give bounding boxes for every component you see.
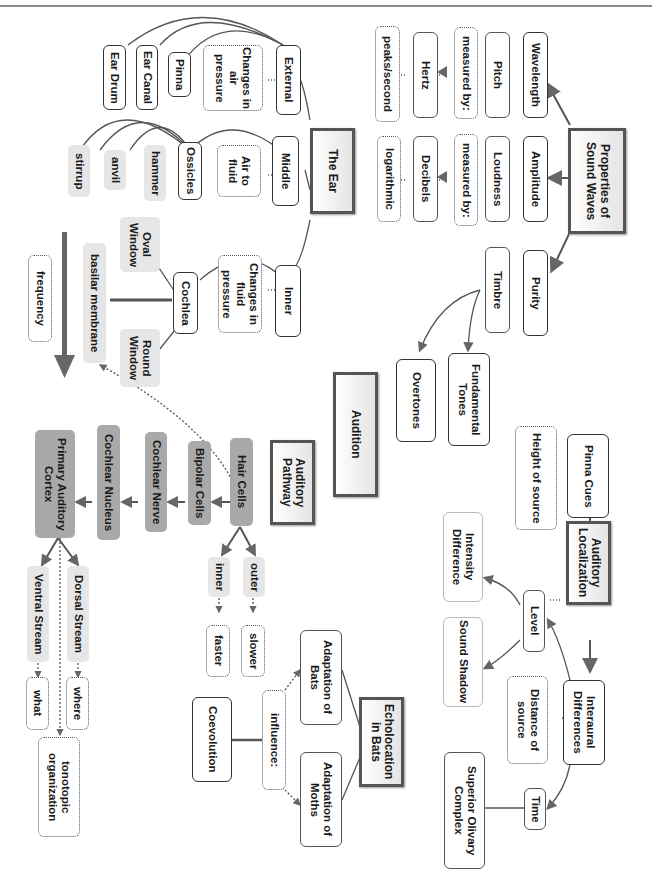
ear-canal-node: Ear Canal xyxy=(136,45,158,110)
auditory-pathway-title: Auditory Pathway xyxy=(270,440,315,525)
external-node: External xyxy=(276,45,301,115)
faster-note: faster xyxy=(206,625,230,677)
superior-olivary-complex-node: Superior Olivary Complex xyxy=(444,752,485,869)
logarithmic-note: logarithmic xyxy=(377,136,401,222)
loudness-measured-by: measured by: xyxy=(454,134,478,226)
ear-drum-node: Ear Drum xyxy=(103,45,126,110)
level-node: Level xyxy=(523,590,545,652)
the-ear-title: The Ear xyxy=(310,128,355,214)
peaks-per-second-note: peaks/second xyxy=(375,26,400,122)
inner-hair-node: inner xyxy=(208,557,230,597)
what-note: what xyxy=(26,677,49,730)
primary-auditory-cortex-node: Primary Auditory Cortex xyxy=(35,430,75,538)
height-of-source-note: Height of source xyxy=(515,426,557,530)
purity-node: Purity xyxy=(523,250,548,336)
where-note: where xyxy=(66,677,89,730)
frequency-note: frequency xyxy=(28,255,52,342)
ventral-stream-node: Ventral Stream xyxy=(27,566,49,662)
hertz-node: Hertz xyxy=(413,32,438,118)
fundamental-tones-node: Fundamental Tones xyxy=(448,353,490,446)
sound-waves-title: Properties of Sound Waves xyxy=(568,128,626,234)
air-to-fluid-note: Air to fluid xyxy=(217,145,261,197)
timbre-node: Timbre xyxy=(485,247,510,333)
influence-note: influence: xyxy=(262,690,286,790)
fluid-pressure-note: Changes in fluid pressure xyxy=(218,255,262,333)
slower-note: slower xyxy=(241,625,265,677)
wavelength-node: Wavelength xyxy=(523,32,548,118)
air-pressure-note: Changes in air pressure xyxy=(203,45,263,111)
outer-hair-node: outer xyxy=(243,557,265,597)
cochlea-node: Cochlea xyxy=(173,272,198,334)
stirrup-node: stirrup xyxy=(68,145,90,197)
round-window-node: Round Window xyxy=(120,329,160,387)
hair-cells-node: Hair Cells xyxy=(230,438,253,526)
pitch-measured-by: measured by: xyxy=(454,27,478,119)
cochlear-nerve-node: Cochlear Nerve xyxy=(145,432,167,532)
time-node: Time xyxy=(524,788,546,830)
anvil-node: anvil xyxy=(104,150,126,190)
inner-node: Inner xyxy=(275,265,301,337)
hammer-node: hammer xyxy=(144,145,166,201)
loudness-node: Loudness xyxy=(485,136,510,222)
interaural-differences-node: Interaural Differences xyxy=(563,680,605,765)
coevolution-node: Coevolution xyxy=(192,697,232,782)
ossicles-node: Ossicles xyxy=(178,142,202,200)
decibels-node: Decibels xyxy=(413,136,438,222)
overtones-node: Overtones xyxy=(396,359,436,442)
oval-window-node: Oval Window xyxy=(120,217,160,272)
pinna-node: Pinna xyxy=(168,52,191,97)
intensity-difference-node: Intensity Difference xyxy=(443,512,483,602)
amplitude-node: Amplitude xyxy=(523,136,548,222)
distance-of-source-note: Distance of source xyxy=(507,676,548,764)
bipolar-cells-node: Bipolar Cells xyxy=(188,441,211,525)
basilar-membrane-node: basilar membrane xyxy=(83,243,106,363)
pinna-cues-node: Pinna Cues xyxy=(567,434,609,518)
echolocation-title: Echolocation in Bats xyxy=(359,697,404,787)
adaptation-of-bats-node: Adaptation of Bats xyxy=(300,630,342,725)
pitch-node: Pitch xyxy=(485,32,510,118)
cochlear-nucleus-node: Cochlear Nucleus xyxy=(97,425,120,540)
sound-shadow-node: Sound Shadow xyxy=(443,617,483,707)
tonotopic-organization-note: tonotopic organization xyxy=(38,737,80,837)
dorsal-stream-node: Dorsal Stream xyxy=(67,566,89,662)
middle-node: Middle xyxy=(272,136,299,206)
audition-title: Audition xyxy=(333,372,378,497)
adaptation-of-moths-node: Adaptation of Moths xyxy=(300,752,342,847)
auditory-localization-title: Auditory Localization xyxy=(566,521,611,605)
